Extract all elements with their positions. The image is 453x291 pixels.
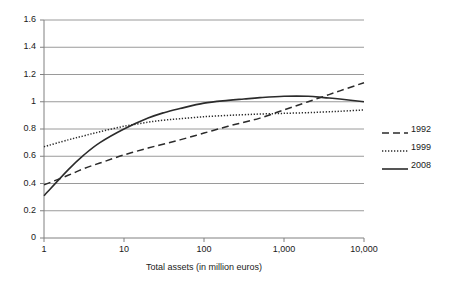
x-axis-title: Total assets (in million euros) xyxy=(44,262,364,272)
data-series-group xyxy=(44,83,364,196)
legend-item-1992[interactable]: 1992 xyxy=(382,120,452,138)
legend-swatch-solid xyxy=(382,160,408,170)
y-tick-label: 1.4 xyxy=(8,42,36,51)
legend-swatch-dashed xyxy=(382,124,408,134)
series-line-1992 xyxy=(44,83,364,185)
y-tick-label: 0.8 xyxy=(8,124,36,133)
series-line-1999 xyxy=(44,110,364,147)
x-tick-label: 10,000 xyxy=(339,245,389,254)
chart-legend: 199219992008 xyxy=(382,120,452,174)
legend-item-1999[interactable]: 1999 xyxy=(382,138,452,156)
x-tick-label: 1 xyxy=(19,245,69,254)
chart-figure: 00.20.40.60.811.21.41.6 1101001,00010,00… xyxy=(0,0,453,291)
y-tick-label: 0.6 xyxy=(8,151,36,160)
x-tick-label: 100 xyxy=(179,245,229,254)
legend-label: 1992 xyxy=(408,124,431,134)
legend-label: 2008 xyxy=(408,160,431,170)
y-tick-label: 1.2 xyxy=(8,70,36,79)
series-line-2008 xyxy=(44,96,364,196)
y-tick-marks xyxy=(40,20,44,238)
y-tick-label: 0.2 xyxy=(8,206,36,215)
legend-label: 1999 xyxy=(408,142,431,152)
y-tick-label: 0 xyxy=(8,233,36,242)
y-tick-label: 1.6 xyxy=(8,15,36,24)
legend-item-2008[interactable]: 2008 xyxy=(382,156,452,174)
x-tick-marks xyxy=(44,238,364,242)
x-tick-label: 1,000 xyxy=(259,245,309,254)
gridlines xyxy=(44,20,364,211)
y-tick-label: 1 xyxy=(8,97,36,106)
x-tick-label: 10 xyxy=(99,245,149,254)
legend-swatch-dotted xyxy=(382,142,408,152)
y-tick-label: 0.4 xyxy=(8,179,36,188)
